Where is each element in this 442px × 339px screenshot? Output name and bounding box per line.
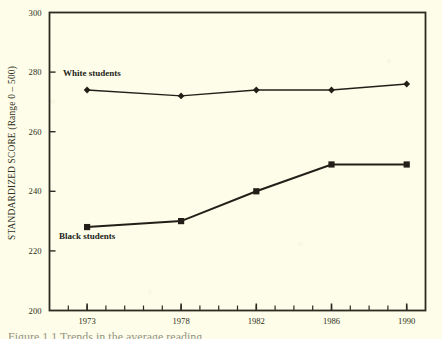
data-point-marker xyxy=(253,87,260,94)
y-tick-label: 260 xyxy=(29,127,42,137)
data-point-marker xyxy=(403,81,410,88)
series-line xyxy=(87,164,407,227)
series-annotation-white: White students xyxy=(63,68,121,78)
data-point-marker xyxy=(178,218,184,224)
y-axis-title: STANDARDIZED SCORE (Range 0 – 500) xyxy=(7,66,18,240)
y-tick-label: 300 xyxy=(29,8,42,18)
chart-figure: 200220240260280300 19731978198219861990 … xyxy=(0,0,442,339)
x-tick-label: 1982 xyxy=(248,316,265,326)
data-series-group xyxy=(84,81,410,231)
x-tick-label: 1973 xyxy=(79,316,96,326)
data-point-marker xyxy=(404,161,410,167)
data-point-marker xyxy=(253,188,259,194)
x-tick-label: 1990 xyxy=(398,316,415,326)
line-chart-svg: 200220240260280300 19731978198219861990 … xyxy=(0,0,442,339)
y-tick-label: 280 xyxy=(29,67,42,77)
data-point-marker xyxy=(84,87,91,94)
x-axis: 19731978198219861990 xyxy=(68,304,415,326)
data-series xyxy=(84,81,410,100)
data-point-marker xyxy=(84,224,90,230)
y-tick-label: 240 xyxy=(29,186,42,196)
data-point-marker xyxy=(328,87,335,94)
data-series xyxy=(84,161,410,230)
y-tick-label: 220 xyxy=(29,246,42,256)
plot-frame xyxy=(50,13,426,311)
series-line xyxy=(87,84,407,96)
x-tick-label: 1986 xyxy=(323,316,341,326)
data-point-marker xyxy=(178,93,185,100)
data-point-marker xyxy=(328,161,334,167)
y-tick-label: 200 xyxy=(29,306,42,316)
x-tick-label: 1978 xyxy=(173,316,190,326)
figure-caption: Figure 1.1 Trends in the average reading xyxy=(8,331,202,339)
series-annotation-black: Black students xyxy=(59,231,116,241)
y-axis: 200220240260280300 xyxy=(29,8,56,316)
